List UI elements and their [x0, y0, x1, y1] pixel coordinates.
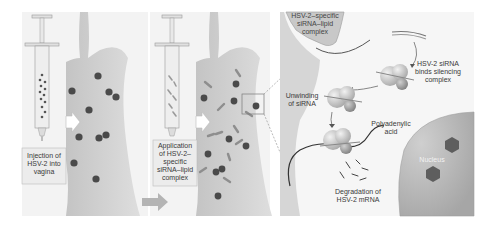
- panel-2-application: [142, 12, 300, 216]
- label-line: complex: [153, 174, 197, 182]
- label-line: Injection of: [22, 152, 66, 160]
- polyadenylic-label: Polyadenylic acid: [366, 120, 416, 136]
- label-line: Polyadenylic: [366, 120, 416, 128]
- label-line: acid: [366, 128, 416, 136]
- injection-label: Injection of HSV-2 into vagina: [22, 152, 66, 176]
- unwinding-label: Unwinding of siRNA: [282, 92, 322, 108]
- label-line: Unwinding: [282, 92, 322, 100]
- label-line: complex: [290, 28, 340, 36]
- label-line: HSV-2–specific: [290, 12, 340, 20]
- diagram-canvas: [0, 0, 480, 228]
- lipid-complex-label: HSV-2–specific siRNA–lipid complex: [290, 12, 340, 36]
- label-line: HSV-2 into: [22, 160, 66, 168]
- panel-3-mechanism: [280, 12, 474, 216]
- label-line: of siRNA: [282, 100, 322, 108]
- nucleus-label: Nucleus: [412, 156, 452, 164]
- panel-1-injection: [22, 12, 148, 216]
- label-line: HSV-2 mRNA: [330, 196, 386, 204]
- label-line: of HSV-2–: [153, 150, 197, 158]
- label-line: specific: [153, 158, 197, 166]
- label-line: vagina: [22, 168, 66, 176]
- degradation-label: Degradation of HSV-2 mRNA: [330, 188, 386, 204]
- label-line: binds silencing: [408, 68, 468, 76]
- label-line: complex: [408, 76, 468, 84]
- label-line: Degradation of: [330, 188, 386, 196]
- label-line: HSV-2 siRNA: [408, 60, 468, 68]
- label-line: Nucleus: [412, 156, 452, 164]
- application-label: Application of HSV-2– specific siRNA–lip…: [153, 142, 197, 182]
- binds-complex-label: HSV-2 siRNA binds silencing complex: [408, 60, 468, 84]
- label-line: siRNA–lipid: [290, 20, 340, 28]
- label-line: Application: [153, 142, 197, 150]
- label-line: siRNA–lipid: [153, 166, 197, 174]
